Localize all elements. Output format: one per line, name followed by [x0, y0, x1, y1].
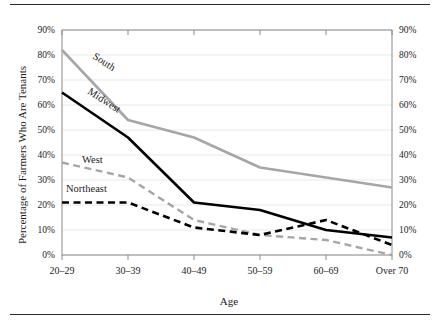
line-chart: 0%10%20%30%40%50%60%70%80%90% 0%10%20%30…	[0, 0, 440, 323]
y-tick-label-left: 10%	[38, 225, 56, 235]
y-tick-label-left: 90%	[38, 25, 56, 35]
series-label-west: West	[82, 154, 103, 165]
y-tick-label-left: 40%	[38, 150, 56, 160]
y-tick-label-right: 80%	[399, 50, 417, 60]
x-axis-category-labels: 20–2930–3940–4950–5960–69Over 70	[50, 265, 409, 276]
series-line-west	[62, 163, 392, 256]
x-category-label: Over 70	[376, 265, 409, 276]
x-axis-title: Age	[220, 295, 238, 307]
x-category-label: 30–39	[116, 265, 141, 276]
x-category-label: 40–49	[182, 265, 207, 276]
series-line-northeast	[62, 203, 392, 246]
y-tick-label-right: 60%	[399, 100, 417, 110]
y-axis-title: Percentage of Farmers Who Are Tenants	[16, 66, 28, 244]
series-line-midwest	[62, 93, 392, 238]
series-label-northeast: Northeast	[66, 183, 107, 194]
y-tick-label-left: 30%	[38, 175, 56, 185]
y-tick-label-right: 40%	[399, 150, 417, 160]
series-inline-labels: SouthMidwestWestNortheast	[66, 50, 123, 194]
y-tick-label-right: 70%	[399, 75, 417, 85]
y-tick-label-left: 50%	[38, 125, 56, 135]
y-tick-label-right: 50%	[399, 125, 417, 135]
series-label-midwest: Midwest	[86, 85, 123, 114]
y-tick-label-right: 20%	[399, 200, 417, 210]
series-label-south: South	[91, 50, 118, 73]
y-tick-label-right: 10%	[399, 225, 417, 235]
y-axis-right-labels: 0%10%20%30%40%50%60%70%80%90%	[399, 25, 417, 260]
y-tick-label-left: 60%	[38, 100, 56, 110]
y-tick-label-right: 30%	[399, 175, 417, 185]
y-tick-label-right: 0%	[399, 250, 412, 260]
y-tick-label-left: 20%	[38, 200, 56, 210]
y-tick-label-right: 90%	[399, 25, 417, 35]
y-tick-label-left: 70%	[38, 75, 56, 85]
x-category-label: 20–29	[50, 265, 75, 276]
x-category-label: 50–59	[248, 265, 273, 276]
y-axis-left-labels: 0%10%20%30%40%50%60%70%80%90%	[38, 25, 56, 260]
chart-plot-area: 0%10%20%30%40%50%60%70%80%90% 0%10%20%30…	[0, 0, 440, 323]
x-category-label: 60–69	[314, 265, 339, 276]
y-tick-label-left: 80%	[38, 50, 56, 60]
figure-container: 0%10%20%30%40%50%60%70%80%90% 0%10%20%30…	[0, 0, 440, 323]
y-tick-label-left: 0%	[42, 250, 55, 260]
series-lines-group	[62, 50, 392, 255]
